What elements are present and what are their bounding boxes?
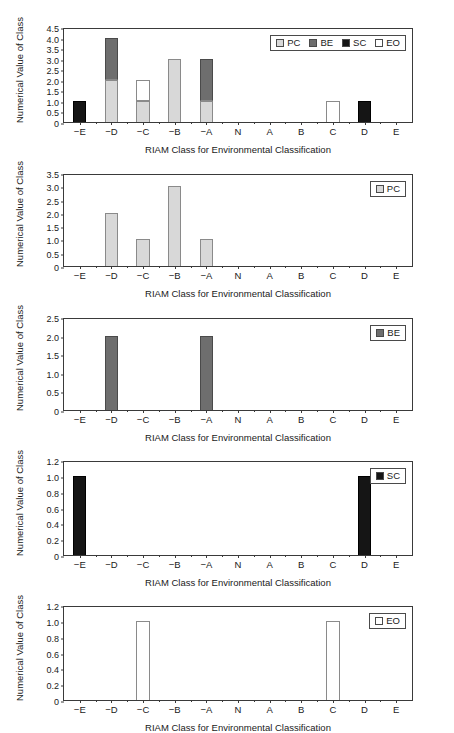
x-tick-label-0: −E [74,271,86,281]
bar-column [136,80,149,122]
y-tick-mark [61,268,64,269]
x-minor-tick-mark [96,410,97,412]
x-tick-label-2: −C [137,705,149,715]
x-minor-tick-mark [222,122,223,124]
x-tick-label-3: −B [169,560,181,570]
y-tick-label: 1.0 [46,370,59,379]
x-tick-mark [396,266,397,269]
legend-item-pc: PC [376,184,400,194]
y-axis-title: Numerical Value of Class [14,461,25,556]
x-minor-tick-mark [317,266,318,268]
y-tick-label: 1.0 [46,473,59,482]
x-minor-tick-mark [127,555,128,557]
x-minor-tick-mark [254,122,255,124]
x-minor-tick-mark [222,555,223,557]
bar-column [105,336,118,410]
x-tick-label-4: −A [200,560,212,570]
y-tick-label: 3.5 [46,46,59,55]
legend-swatch-eo-icon [375,39,383,47]
x-minor-tick-mark [285,266,286,268]
bar-segment-pc [168,186,181,266]
x-tick-mark [80,555,81,558]
x-tick-mark [365,555,366,558]
x-tick-mark [143,266,144,269]
x-tick-mark [301,410,302,413]
x-tick-mark [206,410,207,413]
x-minor-tick-mark [317,555,318,557]
bar-column [73,101,86,122]
y-tick-label: 1.0 [46,98,59,107]
x-minor-tick-mark [159,266,160,268]
x-tick-label-8: C [329,560,336,570]
bar-column [200,59,213,122]
legend-swatch-pc-icon [376,185,384,193]
plot-box: 00.51.01.52.02.53.03.5−E−D−C−B−ANABCDEPC [63,174,413,267]
legend-item-pc: PC [276,38,300,48]
x-tick-mark [206,700,207,703]
x-minor-tick-mark [191,122,192,124]
plot-area-wrapper: 00.51.01.52.02.53.03.5−E−D−C−B−ANABCDEPC… [63,174,413,267]
y-tick-label: 3.0 [46,56,59,65]
bar-segment-be [200,59,213,101]
y-tick-label: 0 [54,264,59,273]
x-minor-tick-mark [380,266,381,268]
y-tick-label: 0.5 [46,109,59,118]
x-minor-tick-mark [127,410,128,412]
y-tick-label: 1.5 [46,88,59,97]
legend: BE [370,325,406,341]
x-minor-tick-mark [349,410,350,412]
x-tick-label-1: −D [105,705,117,715]
bar-segment-eo [326,101,339,122]
x-minor-tick-mark [96,122,97,124]
x-minor-tick-mark [380,700,381,702]
x-minor-tick-mark [159,410,160,412]
x-tick-mark [111,122,112,125]
x-minor-tick-mark [222,410,223,412]
x-axis-title: RIAM Class for Environmental Classificat… [63,144,413,155]
x-tick-label-2: −C [137,127,149,137]
y-tick-label: 0 [54,408,59,417]
x-tick-label-0: −E [74,705,86,715]
y-tick-label: 2.5 [46,197,59,206]
plot-area-wrapper: 00.20.40.60.81.01.2−E−D−C−B−ANABCDEEORIA… [63,606,413,701]
x-tick-label-6: A [266,415,272,425]
legend-swatch-sc-icon [342,39,350,47]
x-tick-label-4: −A [200,705,212,715]
x-tick-mark [396,122,397,125]
bar-column [326,101,339,122]
y-tick-label: 0.2 [46,682,59,691]
bar-segment-pc [105,80,118,122]
y-tick-label: 3.5 [46,171,59,180]
x-tick-label-9: D [361,705,368,715]
y-tick-label: 1.0 [46,237,59,246]
x-minor-tick-mark [380,122,381,124]
y-tick-mark [61,702,64,703]
bars-layer [64,462,412,555]
bar-segment-eo [136,621,149,700]
y-tick-label: 4.5 [46,25,59,34]
x-tick-mark [270,122,271,125]
x-tick-mark [111,700,112,703]
bar-segment-pc [136,239,149,266]
bar-column [326,621,339,700]
x-tick-label-3: −B [169,705,181,715]
bars-layer [64,175,412,266]
x-tick-mark [270,555,271,558]
x-minor-tick-mark [349,122,350,124]
bars-layer [64,607,412,700]
y-tick-label: 2.5 [46,315,59,324]
x-tick-mark [143,410,144,413]
bar-column [73,476,86,555]
x-tick-label-1: −D [105,271,117,281]
bar-segment-pc [168,59,181,122]
bar-segment-sc [358,101,371,122]
x-tick-label-7: B [298,560,304,570]
bar-column [168,186,181,266]
bar-column [136,621,149,700]
x-tick-mark [175,555,176,558]
x-minor-tick-mark [285,700,286,702]
x-tick-label-3: −B [169,271,181,281]
x-tick-mark [175,122,176,125]
x-minor-tick-mark [159,555,160,557]
x-minor-tick-mark [285,555,286,557]
